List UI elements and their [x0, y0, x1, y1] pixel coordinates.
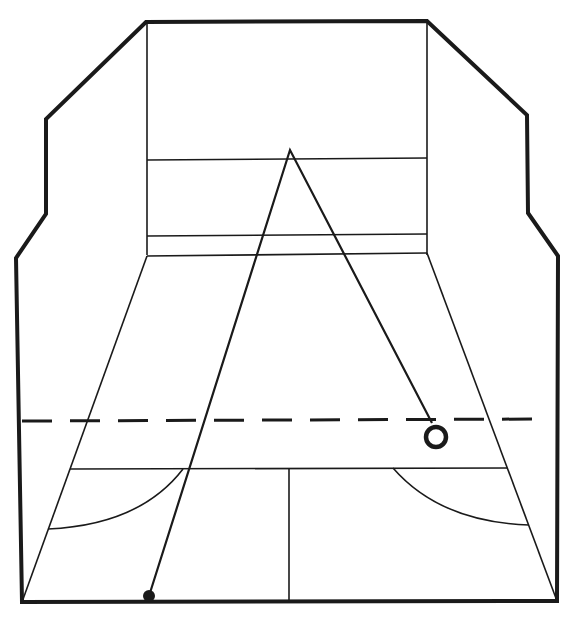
front-wall-tin-line [147, 234, 427, 236]
court-outline [16, 21, 558, 602]
right-service-box-arc [393, 468, 529, 525]
short-line [70, 468, 507, 469]
front-wall-floor-edge [147, 253, 427, 256]
squash-court-diagram [0, 0, 572, 627]
left-service-box-arc [48, 469, 183, 529]
ball-landing-ring [426, 427, 446, 447]
ball-trajectory [149, 150, 432, 596]
floor-lines [22, 253, 557, 602]
left-side-wall-floor-line [22, 256, 147, 602]
dashed-reference-line [22, 419, 542, 421]
court-svg [0, 0, 572, 627]
player-start-dot [143, 590, 155, 602]
right-side-wall-floor-line [427, 253, 557, 601]
front-wall [147, 22, 427, 256]
